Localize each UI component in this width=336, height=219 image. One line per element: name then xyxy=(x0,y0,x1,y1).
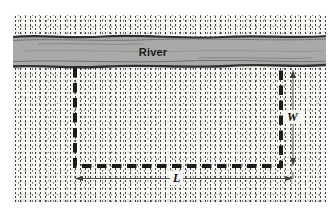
l-arrow-left xyxy=(75,176,84,181)
width-label: W xyxy=(284,110,301,124)
length-label: L xyxy=(170,171,183,185)
w-arrow-top xyxy=(290,70,295,79)
l-dimension-line xyxy=(75,176,294,181)
w-dimension-line xyxy=(290,70,295,179)
ground-area: River W L xyxy=(13,15,326,202)
page: River W L xyxy=(0,0,336,219)
l-arrow-right xyxy=(285,176,294,181)
fence-dashed-outline xyxy=(75,68,281,166)
river-top-edge xyxy=(13,36,326,38)
w-arrow-bottom xyxy=(290,158,295,167)
river-label: River xyxy=(121,46,185,58)
